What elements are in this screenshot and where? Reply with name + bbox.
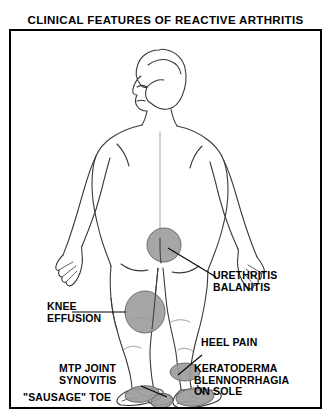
finger-line-2 — [62, 266, 76, 277]
arm-left-inner — [82, 158, 110, 246]
scapula-left — [117, 144, 129, 166]
torso-right-contour — [177, 126, 228, 270]
hair-strand — [148, 60, 181, 74]
annotation-urethritis-line-1: URETHRITIS — [213, 270, 278, 282]
finger-line-1 — [59, 262, 73, 270]
annotation-knee-line-2: EFFUSION — [47, 313, 101, 325]
annotation-sausage-line-1: "SAUSAGE" TOE — [23, 392, 111, 404]
annotation-heel-pain: HEEL PAIN — [201, 337, 257, 349]
mouth-line — [137, 100, 145, 101]
clinical-figure-panel: CLINICAL FEATURES OF REACTIVE ARTHRITIS — [0, 0, 333, 418]
neck-right — [171, 109, 177, 126]
calf-left — [123, 346, 141, 350]
annotation-knee-line-1: KNEE — [47, 301, 101, 313]
illustration-canvas — [11, 32, 320, 407]
annotation-mtp-joint-synovitis: MTP JOINT SYNOVITIS — [59, 363, 116, 386]
neck-left — [142, 111, 147, 125]
hair-strand-2 — [147, 80, 164, 87]
annotation-heel-line-1: HEEL PAIN — [201, 337, 257, 349]
arm-right-outer — [224, 161, 257, 257]
annotation-knee-effusion: KNEE EFFUSION — [47, 301, 101, 324]
annotation-keratoderma-line-1: KERATODERMA — [194, 363, 289, 375]
page-title: CLINICAL FEATURES OF REACTIVE ARTHRITIS — [27, 14, 303, 26]
scapula-right — [190, 146, 202, 168]
annotation-keratoderma: KERATODERMA BLENNORRHAGIA ON SOLE — [194, 363, 289, 398]
arm-left-outer — [63, 156, 96, 255]
leg-left-outer-overlay — [111, 298, 117, 330]
lesion-groin — [147, 228, 181, 262]
face-profile — [133, 76, 147, 111]
anatomical-figure-svg — [11, 32, 320, 407]
annotation-urethritis: URETHRITIS BALANITIS — [213, 270, 278, 293]
gluteal-fold-right — [172, 266, 199, 273]
arm-right-inner — [210, 162, 238, 249]
annotation-keratoderma-line-3: ON SOLE — [194, 386, 289, 398]
annotation-urethritis-line-2: BALANITIS — [213, 282, 278, 294]
calf-right — [178, 348, 194, 352]
hand-left — [56, 246, 83, 286]
gluteal-fold-left — [121, 264, 148, 271]
figure-title-bar: CLINICAL FEATURES OF REACTIVE ARTHRITIS — [9, 10, 322, 31]
annotation-mtp-line-1: MTP JOINT — [59, 363, 116, 375]
annotation-sausage-toe: "SAUSAGE" TOE — [23, 392, 111, 404]
lesion-knee — [125, 291, 165, 333]
annotation-mtp-line-2: SYNOVITIS — [59, 375, 116, 387]
knee-crease-right — [171, 320, 190, 322]
torso-left-contour — [92, 125, 142, 266]
